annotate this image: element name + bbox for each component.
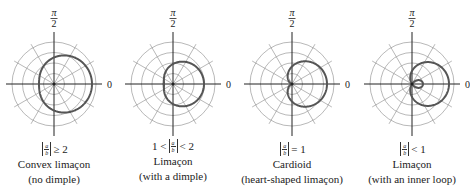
pi-label: π — [51, 7, 57, 18]
pi-label: π — [170, 7, 176, 18]
caption-dimple: 1 < a b < 2 Limaçon (with a dimple) — [113, 138, 233, 184]
fraction-denominator: b — [172, 147, 175, 153]
condition: 1 < a b < 2 — [152, 138, 194, 154]
caption-convex: a b ≥ 2 Convex limaçon (no dimple) — [0, 138, 114, 187]
curve-note: (no dimple) — [0, 172, 114, 187]
two-label: 2 — [290, 18, 295, 29]
polar-plot-convex: π20 — [6, 7, 112, 136]
polar-plot-inner-loop: π20 — [364, 7, 470, 136]
pole-point — [291, 83, 294, 86]
abs-ratio: a b — [280, 142, 289, 156]
condition: a b ≥ 2 — [40, 141, 67, 157]
caption-inner-loop: a b < 1 Limaçon (with an inner loop) — [352, 138, 470, 187]
curve-name: Limaçon — [113, 154, 233, 169]
polar-plot-dimple: π20 — [125, 7, 231, 136]
pole-point — [411, 83, 414, 86]
curve-note: (heart-shaped limaçon) — [232, 172, 352, 187]
pole-point — [53, 83, 56, 86]
fraction-a-over-b: a b — [44, 143, 49, 156]
caption-cardioid: a b = 1 Cardioid (heart-shaped limaçon) — [232, 138, 352, 187]
condition-prefix: 1 < — [152, 139, 166, 154]
polar-plot-cardioid: π20 — [244, 7, 350, 136]
condition: a b < 1 — [398, 141, 425, 157]
two-label: 2 — [171, 18, 176, 29]
zero-angle-label: 0 — [226, 79, 231, 90]
curve-note: (with a dimple) — [113, 169, 233, 184]
zero-angle-label: 0 — [345, 79, 350, 90]
abs-ratio: a b — [169, 139, 178, 153]
condition-operator: = 1 — [291, 142, 305, 157]
curve-note: (with an inner loop) — [352, 172, 470, 187]
two-label: 2 — [410, 18, 415, 29]
two-label: 2 — [52, 18, 57, 29]
condition: a b = 1 — [278, 141, 305, 157]
pole-point — [172, 83, 175, 86]
fraction-a-over-b: a b — [171, 140, 176, 153]
abs-ratio: a b — [42, 142, 51, 156]
zero-angle-label: 0 — [465, 79, 470, 90]
fraction-denominator: b — [45, 150, 48, 156]
zero-angle-label: 0 — [107, 79, 112, 90]
condition-operator: < 1 — [411, 142, 425, 157]
pi-label: π — [289, 7, 295, 18]
fraction-denominator: b — [283, 150, 286, 156]
curve-name: Limaçon — [352, 157, 470, 172]
curve-name: Convex limaçon — [0, 157, 114, 172]
curve-name: Cardioid — [232, 157, 352, 172]
abs-ratio: a b — [400, 142, 409, 156]
condition-operator: < 2 — [180, 139, 194, 154]
fraction-a-over-b: a b — [402, 143, 407, 156]
condition-operator: ≥ 2 — [53, 142, 67, 157]
fraction-denominator: b — [403, 150, 406, 156]
fraction-a-over-b: a b — [282, 143, 287, 156]
pi-label: π — [409, 7, 415, 18]
